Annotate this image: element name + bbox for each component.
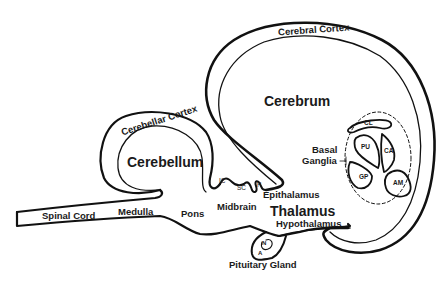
label-am: AM [393,180,403,187]
label-n: N [262,240,266,246]
label-ganglia: Ganglia [302,156,337,166]
label-p: P [257,182,261,189]
label-pituitary-gland: Pituitary Gland [229,260,297,270]
label-gp: GP [359,174,368,181]
label-ic: IC [219,178,226,185]
label-ca: CA [384,148,393,155]
label-epithalamus: Epithalamus [263,190,320,200]
label-medulla: Medulla [118,207,153,217]
label-cerebellum: Cerebellum [127,155,203,169]
label-a: A [258,250,262,256]
label-midbrain: Midbrain [217,202,257,212]
brain-outline-drawing [0,0,447,283]
label-sc: SC [237,185,246,192]
brain-diagram: Cerebral Cortex Cerebrum Cerebellar Cort… [0,0,447,283]
label-hypothalamus: Hypothalamus [276,219,341,229]
basal-ganglia-envelope [345,112,411,204]
label-cl: CL [364,120,373,127]
label-spinal-cord: Spinal Cord [42,211,95,221]
label-cerebrum: Cerebrum [264,94,330,108]
label-pu: PU [361,144,370,151]
label-thalamus: Thalamus [270,204,335,218]
label-basal: Basal [312,145,337,155]
label-pons: Pons [181,209,204,219]
pu-shape [355,135,380,168]
